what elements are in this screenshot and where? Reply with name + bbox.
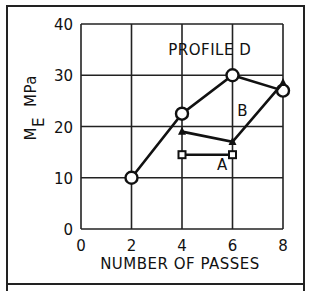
y-tick-label: 0 [63, 221, 73, 239]
y-tick-label: 30 [54, 67, 73, 85]
y-tick-label: 40 [54, 16, 73, 34]
x-axis-label: NUMBER OF PASSES [100, 255, 260, 273]
y-tick-label: 20 [54, 119, 73, 137]
svg-text:MEMPa: MEMPa [22, 75, 48, 140]
y-axis-label: MEMPa [22, 75, 48, 140]
annotation-label: PROFILE D [168, 41, 251, 59]
x-tick-label: 2 [127, 237, 137, 255]
circle-marker [126, 172, 138, 184]
annotation-label: A [217, 156, 228, 174]
square-marker [229, 151, 236, 158]
x-tick-label: 6 [228, 237, 238, 255]
triangle-marker [279, 78, 287, 86]
x-tick-label: 8 [278, 237, 288, 255]
x-tick-label: 0 [76, 237, 86, 255]
circle-marker [176, 108, 188, 120]
chart: 02468010203040NUMBER OF PASSESMEMPaPROFI… [0, 0, 313, 291]
y-tick-label: 10 [54, 170, 73, 188]
annotation-label: B [237, 102, 248, 120]
triangle-marker [178, 127, 186, 135]
circle-marker [227, 69, 239, 81]
x-tick-label: 4 [177, 237, 187, 255]
square-marker [179, 151, 186, 158]
